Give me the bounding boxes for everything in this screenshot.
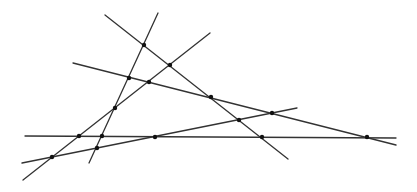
intersection-point-AC — [113, 106, 117, 110]
intersection-point-AF — [95, 146, 99, 150]
line-D — [73, 63, 396, 145]
line-A — [89, 13, 158, 163]
intersection-point-AE — [100, 134, 104, 138]
intersection-point-DF — [270, 111, 274, 115]
intersection-point-AB — [142, 43, 146, 47]
intersection-point-AD — [127, 76, 131, 80]
intersection-point-BF — [237, 118, 241, 122]
line-arrangement-diagram — [0, 0, 417, 192]
line-F — [22, 108, 297, 163]
intersection-point-EF — [153, 135, 157, 139]
intersection-point-BC — [168, 63, 172, 67]
intersection-point-CD — [147, 80, 151, 84]
intersection-point-BD — [209, 95, 213, 99]
intersection-point-DE — [365, 135, 369, 139]
intersection-points-group — [50, 43, 369, 159]
intersection-point-CF — [50, 155, 54, 159]
intersection-point-BE — [260, 135, 264, 139]
intersection-point-CE — [77, 134, 81, 138]
